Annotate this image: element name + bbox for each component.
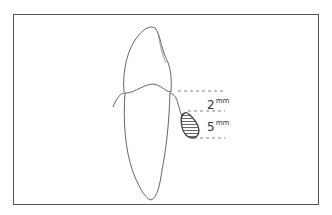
measurement-value: 5 <box>207 120 215 134</box>
gingiva-right <box>170 93 182 116</box>
measurement-label-5mm: 5mm <box>207 116 229 135</box>
tooth-crown <box>124 27 172 92</box>
lesion-shape <box>181 113 199 138</box>
measurement-unit: mm <box>216 119 230 127</box>
tooth-diagram <box>0 0 332 215</box>
measurement-unit: mm <box>216 97 230 105</box>
gingiva-left <box>113 93 124 107</box>
cej-line <box>124 84 171 93</box>
measurement-label-2mm: 2mm <box>207 94 229 113</box>
measurement-value: 2 <box>207 98 215 112</box>
tooth-root <box>124 93 170 200</box>
